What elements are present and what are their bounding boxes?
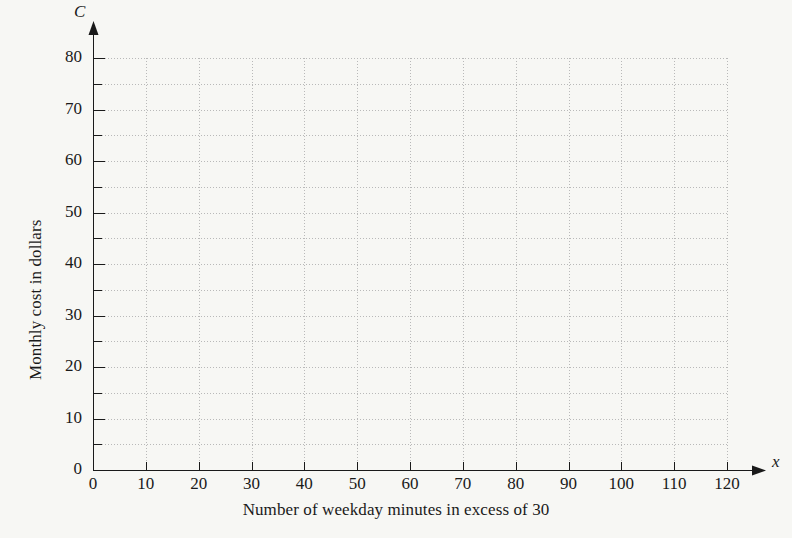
y-tick-label: 70 (42, 99, 82, 119)
y-tick-label: 30 (42, 305, 82, 325)
y-tick-label: 50 (42, 202, 82, 222)
x-tick-label: 80 (494, 474, 538, 494)
y-tick-label: 60 (42, 150, 82, 170)
chart-figure: Monthly cost in dollars Number of weekda… (0, 0, 792, 538)
y-tick-label: 10 (42, 408, 82, 428)
x-tick-label: 100 (599, 474, 643, 494)
y-tick-label: 0 (42, 459, 82, 479)
y-tick-label: 80 (42, 47, 82, 67)
y-tick-label: 40 (42, 253, 82, 273)
y-axis-ticks (93, 59, 105, 445)
x-axis-arrow-icon (752, 466, 766, 476)
plot-area (0, 0, 792, 538)
y-axis-arrow-icon (89, 21, 99, 35)
x-tick-label: 20 (177, 474, 221, 494)
x-tick-label: 40 (282, 474, 326, 494)
x-tick-label: 120 (705, 474, 749, 494)
x-tick-label: 90 (547, 474, 591, 494)
x-tick-label: 110 (652, 474, 696, 494)
x-axis-variable-label: x (772, 452, 780, 472)
horizontal-gridlines (93, 59, 727, 445)
x-tick-label: 30 (230, 474, 274, 494)
x-tick-label: 10 (124, 474, 168, 494)
x-tick-label: 70 (441, 474, 485, 494)
vertical-gridlines (147, 58, 728, 470)
x-axis-title: Number of weekday minutes in excess of 3… (0, 500, 792, 520)
x-tick-label: 60 (388, 474, 432, 494)
y-axis-variable-label: C (74, 2, 85, 22)
x-tick-label: 50 (335, 474, 379, 494)
y-tick-label: 20 (42, 356, 82, 376)
x-axis-ticks (147, 462, 728, 470)
